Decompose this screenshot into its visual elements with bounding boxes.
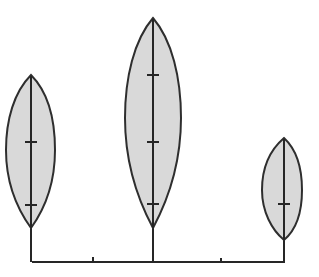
leaf-diagram [0,0,319,277]
baseline-group [32,257,285,262]
right-leaf-blade [262,138,302,240]
right-leaf [262,138,302,262]
middle-leaf [125,18,181,262]
left-leaf [6,75,55,262]
leaf-diagram-svg [0,0,319,277]
